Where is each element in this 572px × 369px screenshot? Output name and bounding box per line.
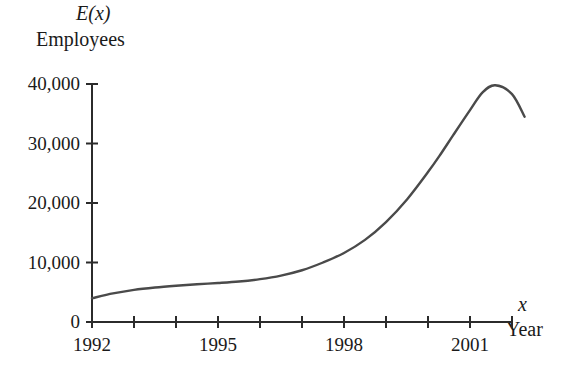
x-axis-tick-label: 1995 [199, 334, 237, 356]
data-series-group [92, 85, 525, 298]
chart-figure: E(x) Employees x Year 010,00020,00030,00… [0, 0, 572, 369]
chart-canvas [0, 0, 572, 369]
y-axis-tick-label: 40,000 [28, 73, 80, 95]
x-axis-tick-label: 1998 [325, 334, 363, 356]
data-line [92, 85, 525, 298]
y-axis-tick-label: 20,000 [28, 192, 80, 214]
y-axis-tick-label: 0 [71, 311, 81, 333]
x-axis-tick-label: 1992 [73, 334, 111, 356]
x-axis-tick-label: 2001 [451, 334, 489, 356]
y-axis-tick-label: 10,000 [28, 252, 80, 274]
y-axis-tick-label: 30,000 [28, 133, 80, 155]
